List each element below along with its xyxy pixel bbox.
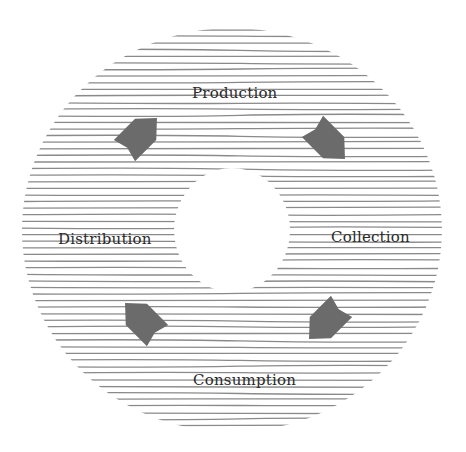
- node-label-distribution: Distribution: [58, 232, 152, 247]
- arrow-distribution-to-production-icon: [114, 107, 168, 161]
- node-label-collection: Collection: [331, 230, 410, 245]
- node-label-consumption: Consumption: [193, 373, 296, 388]
- node-label-production: Production: [192, 86, 277, 101]
